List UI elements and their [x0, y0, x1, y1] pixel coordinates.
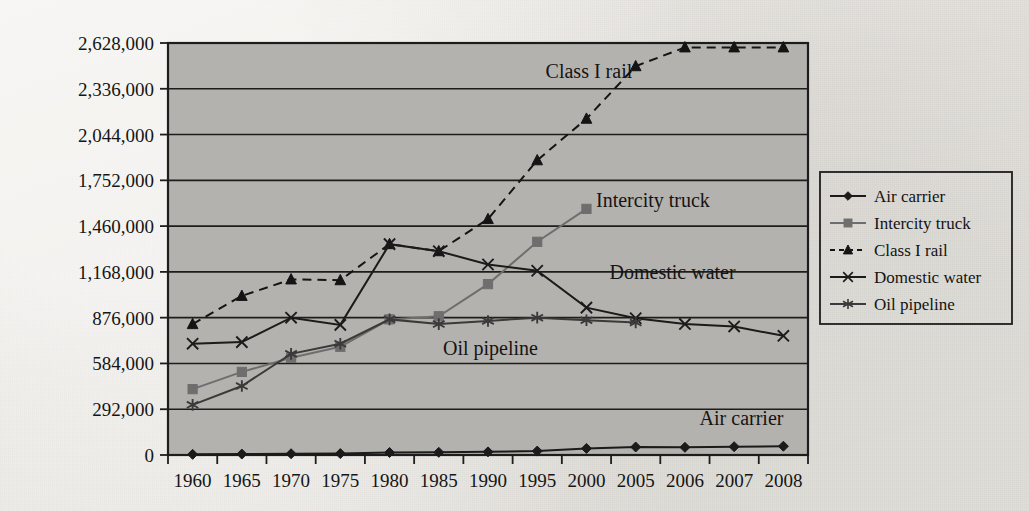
legend-item-oil-pipeline[interactable]: Oil pipeline: [830, 295, 955, 314]
x-axis-tick-label: 1990: [469, 470, 507, 491]
x-axis-tick-label: 1985: [420, 470, 458, 491]
plot-area-rect: [168, 43, 808, 455]
x-axis-tick-label: 2008: [764, 470, 802, 491]
legend-item-intercity-truck[interactable]: Intercity truck: [830, 214, 971, 233]
x-axis-tick-label: 2007: [715, 470, 753, 491]
y-axis-tick-label: 0: [145, 445, 155, 466]
x-axis-tick-label: 1995: [518, 470, 556, 491]
y-axis-tick-label: 584,000: [92, 353, 154, 374]
x-axis-tick-label: 1960: [174, 470, 212, 491]
y-axis-tick-label: 876,000: [92, 308, 154, 329]
legend-item-air-carrier[interactable]: Air carrier: [830, 187, 946, 206]
x-axis-tick-label: 1965: [223, 470, 261, 491]
chart-figure: 0292,000584,000876,0001,168,0001,460,000…: [0, 0, 1029, 511]
series-annotation-label: Oil pipeline: [443, 337, 538, 360]
x-axis-tick-label: 1970: [272, 470, 310, 491]
x-axis-tick-label: 2005: [617, 470, 655, 491]
x-axis-tick-label: 1975: [321, 470, 359, 491]
y-axis-tick-label: 1,460,000: [78, 216, 154, 237]
x-axis-tick-label: 2000: [567, 470, 605, 491]
series-annotation-label: Intercity truck: [596, 189, 710, 212]
data-point-marker-square: [533, 237, 542, 246]
data-point-marker-square: [188, 385, 197, 394]
data-point-marker-square: [237, 367, 246, 376]
legend-box: Air carrierIntercity truckClass I railDo…: [820, 172, 1012, 324]
data-point-marker-square: [844, 219, 852, 227]
legend-item-label: Domestic water: [874, 268, 981, 287]
legend-item-label: Air carrier: [874, 187, 946, 206]
legend-item-class-i-rail[interactable]: Class I rail: [830, 241, 948, 260]
x-axis-tick-label: 1980: [371, 470, 409, 491]
data-point-marker-square: [582, 204, 591, 213]
y-axis-tick-label: 2,628,000: [78, 33, 154, 54]
legend-item-label: Oil pipeline: [874, 295, 955, 314]
series-annotation-label: Domestic water: [610, 261, 736, 283]
y-axis-tick-layer: 0292,000584,000876,0001,168,0001,460,000…: [78, 33, 168, 466]
data-point-marker-diamond: [844, 192, 853, 201]
x-axis-tick-label: 2006: [666, 470, 704, 491]
y-axis-tick-label: 1,168,000: [78, 262, 154, 283]
series-annotation-label: Air carrier: [700, 407, 784, 429]
legend-item-label: Intercity truck: [874, 214, 971, 233]
y-axis-tick-label: 1,752,000: [78, 170, 154, 191]
line-chart-canvas: 0292,000584,000876,0001,168,0001,460,000…: [0, 0, 1029, 511]
legend-item-label: Class I rail: [874, 241, 948, 260]
data-point-marker-square: [483, 280, 492, 289]
series-annotation-label: Class I rail: [546, 60, 633, 82]
legend-item-domestic-water[interactable]: Domestic water: [830, 268, 981, 287]
y-axis-tick-label: 292,000: [92, 399, 154, 420]
y-axis-tick-label: 2,336,000: [78, 79, 154, 100]
x-axis-tick-layer: 1960196519701975198019851990199520002005…: [168, 455, 808, 491]
y-axis-tick-label: 2,044,000: [78, 125, 154, 146]
plot-area-background: [168, 43, 808, 455]
